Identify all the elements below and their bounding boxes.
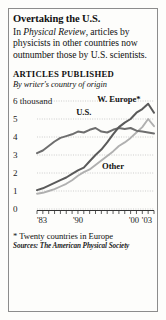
x-tick-03: '03: [142, 215, 152, 225]
y-tick-6: 6 thousand: [13, 96, 53, 106]
y-tick-1: 1: [13, 186, 18, 196]
headline: Overtaking the U.S.: [13, 13, 155, 25]
series-label-us: U.S.: [76, 106, 91, 116]
series-line-w-europe: [37, 104, 154, 190]
series-label-other: Other: [102, 160, 124, 170]
x-tick-90: '90: [73, 215, 83, 225]
y-tick-3: 3: [13, 150, 18, 160]
x-axis: '83 '90 '00 '03: [37, 210, 154, 225]
y-tick-4: 4: [13, 132, 18, 142]
y-tick-2: 2: [13, 168, 18, 178]
y-tick-0: 0: [13, 204, 18, 214]
deck-text: In Physical Review, articles by physicis…: [13, 26, 155, 60]
footnote: * Twenty countries in Europe: [13, 231, 155, 241]
x-axis-ticks: [37, 210, 154, 214]
chart-section-title: ARTICLES PUBLISHED: [13, 69, 155, 79]
chart-section-subtitle: By writer's country of origin: [13, 80, 155, 89]
figure-content: Overtaking the U.S. In Physical Review, …: [13, 13, 155, 308]
y-tick-5: 5: [13, 114, 18, 124]
line-chart: 6 thousand 5 4 3 2 1 0 W. Europe* U.S. O…: [13, 93, 155, 226]
series-label-w-europe: W. Europe*: [97, 94, 140, 104]
infographic-figure: Overtaking the U.S. In Physical Review, …: [0, 0, 166, 320]
source-line: Sources: The American Physical Society: [13, 242, 155, 250]
chart-svg: 6 thousand 5 4 3 2 1 0 W. Europe* U.S. O…: [13, 93, 155, 226]
x-tick-83: '83: [37, 215, 47, 225]
deck-pre: In: [13, 26, 23, 37]
x-tick-00: '00: [129, 215, 139, 225]
series-paths: [37, 104, 154, 194]
deck-italic-title: Physical Review: [23, 26, 85, 37]
